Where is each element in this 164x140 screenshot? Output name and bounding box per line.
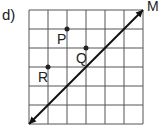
point-label-r: R: [38, 69, 48, 85]
grid-diagram: M PQR: [0, 0, 164, 140]
line-label-m: M: [147, 0, 159, 14]
point-label-q: Q: [76, 50, 87, 66]
points: PQR: [38, 27, 89, 86]
point-label-p: P: [57, 31, 66, 47]
